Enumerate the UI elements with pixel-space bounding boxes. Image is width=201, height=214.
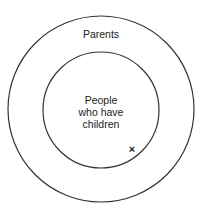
inner-label-line-3: children [66,118,136,130]
inner-circle-label: People who have children [66,94,136,130]
outer-circle-label: Parents [76,28,126,40]
inner-label-line-1: People [66,94,136,106]
cross-marker-icon: × [127,143,137,155]
inner-label-line-2: who have [66,106,136,118]
